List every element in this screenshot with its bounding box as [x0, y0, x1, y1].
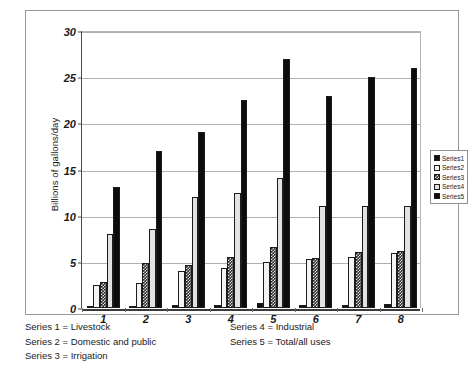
bar-series1-7 — [342, 305, 349, 308]
figure: Billions of gallons/day 051015202530 123… — [0, 0, 473, 375]
bar-series3-3 — [185, 265, 192, 308]
legend-item-series1[interactable]: Series1 — [434, 154, 464, 163]
series-caption: Series 1 = LivestockSeries 2 = Domestic … — [25, 320, 459, 364]
caption-column-right: Series 4 = IndustrialSeries 5 = Total/al… — [230, 320, 430, 364]
x-tick-mark — [337, 308, 338, 312]
bar-series2-6 — [306, 259, 313, 308]
bar-series3-5 — [270, 247, 277, 308]
caption-column-left: Series 1 = LivestockSeries 2 = Domestic … — [25, 320, 230, 364]
y-tick-label: 0 — [70, 303, 76, 315]
bar-series2-2 — [136, 283, 143, 308]
legend-swatch-icon — [434, 174, 440, 180]
bar-series3-1 — [100, 282, 107, 308]
bar-series2-3 — [178, 271, 185, 308]
x-tick-mark — [167, 308, 168, 312]
bar-series3-2 — [142, 263, 149, 308]
bar-group — [82, 32, 125, 308]
y-tick-label: 20 — [64, 118, 76, 130]
legend-swatch-icon — [434, 184, 440, 190]
bar-series5-1 — [113, 187, 120, 308]
bar-series2-7 — [348, 257, 355, 308]
y-tick-label: 25 — [64, 72, 76, 84]
bar-series2-8 — [391, 253, 398, 308]
y-tick-label: 5 — [70, 257, 76, 269]
bar-group — [125, 32, 168, 308]
legend: Series1Series2Series3Series4Series5 — [430, 150, 468, 204]
caption-line: Series 1 = Livestock — [25, 320, 230, 335]
legend-label: Series1 — [442, 155, 464, 162]
legend-item-series5[interactable]: Series5 — [434, 192, 464, 201]
x-tick-mark — [125, 308, 126, 312]
legend-label: Series4 — [442, 183, 464, 190]
legend-item-series4[interactable]: Series4 — [434, 182, 464, 191]
bar-series4-6 — [319, 206, 326, 308]
bar-series5-5 — [283, 59, 290, 308]
legend-swatch-icon — [434, 165, 440, 171]
bar-series5-2 — [156, 151, 163, 308]
bar-series5-6 — [326, 96, 333, 308]
bar-series4-1 — [107, 234, 114, 308]
y-tick-label: 15 — [64, 165, 76, 177]
legend-label: Series2 — [442, 164, 464, 171]
x-tick-mark — [252, 308, 253, 312]
bar-series1-5 — [257, 303, 264, 308]
gridline — [82, 309, 420, 311]
bar-series1-4 — [214, 305, 221, 308]
bar-series5-7 — [368, 77, 375, 308]
bar-group — [380, 32, 423, 308]
bar-series4-5 — [277, 178, 284, 308]
x-tick-mark — [82, 308, 83, 312]
bar-series3-6 — [312, 258, 319, 308]
bar-series4-4 — [234, 193, 241, 308]
caption-line: Series 4 = Industrial — [230, 320, 430, 335]
x-tick-mark — [380, 308, 381, 312]
x-tick-mark — [295, 308, 296, 312]
bar-series2-1 — [93, 285, 100, 308]
x-tick-mark — [422, 308, 423, 312]
legend-item-series3[interactable]: Series3 — [434, 173, 464, 182]
bar-series5-3 — [198, 132, 205, 308]
y-axis-title: Billions of gallons/day — [49, 85, 60, 245]
legend-swatch-icon — [434, 155, 440, 161]
bar-series3-7 — [355, 252, 362, 308]
bar-series4-2 — [149, 229, 156, 308]
bar-series1-8 — [384, 304, 391, 308]
bar-group — [210, 32, 253, 308]
bar-group — [337, 32, 380, 308]
bar-series2-4 — [221, 268, 228, 308]
bar-series5-8 — [411, 68, 418, 308]
bar-group — [252, 32, 295, 308]
bar-series3-4 — [227, 257, 234, 308]
caption-line: Series 3 = Irrigation — [25, 349, 230, 364]
bars-layer — [82, 32, 420, 308]
bar-series3-8 — [397, 251, 404, 308]
bar-series5-4 — [241, 100, 248, 308]
chart-frame: Billions of gallons/day 051015202530 123… — [25, 10, 459, 315]
legend-label: Series5 — [442, 193, 464, 200]
bar-series4-3 — [192, 197, 199, 308]
legend-item-series2[interactable]: Series2 — [434, 163, 464, 172]
bar-series1-2 — [129, 306, 136, 308]
bar-series2-5 — [263, 262, 270, 308]
bar-series1-6 — [299, 305, 306, 308]
bar-series1-3 — [172, 305, 179, 308]
y-tick-label: 10 — [64, 211, 76, 223]
legend-label: Series3 — [442, 174, 464, 181]
caption-line: Series 5 = Total/all uses — [230, 335, 430, 350]
bar-group — [167, 32, 210, 308]
y-tick-label: 30 — [64, 26, 76, 38]
bar-series4-8 — [404, 206, 411, 308]
legend-swatch-icon — [434, 193, 440, 199]
x-tick-mark — [210, 308, 211, 312]
bar-series4-7 — [362, 206, 369, 308]
bar-series1-1 — [87, 306, 94, 308]
plot-area: 051015202530 12345678 — [81, 31, 421, 308]
caption-line: Series 2 = Domestic and public — [25, 335, 230, 350]
bar-group — [295, 32, 338, 308]
